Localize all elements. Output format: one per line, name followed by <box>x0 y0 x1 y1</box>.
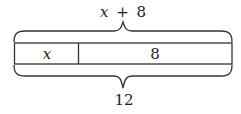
tape-diagram: x + 8 x 8 12 <box>0 0 241 114</box>
top-label-num: 8 <box>137 3 147 21</box>
top-label-var: x <box>100 3 109 21</box>
bottom-brace-label: 12 <box>114 91 133 109</box>
top-brace-label: x + 8 <box>100 3 146 21</box>
segment-8-label: 8 <box>150 45 160 63</box>
bottom-brace <box>14 65 232 88</box>
top-brace <box>14 22 232 42</box>
segment-x-label: x <box>43 45 52 63</box>
top-label-op: + <box>116 3 129 21</box>
svg-text:x + 8: x + 8 <box>100 3 146 21</box>
